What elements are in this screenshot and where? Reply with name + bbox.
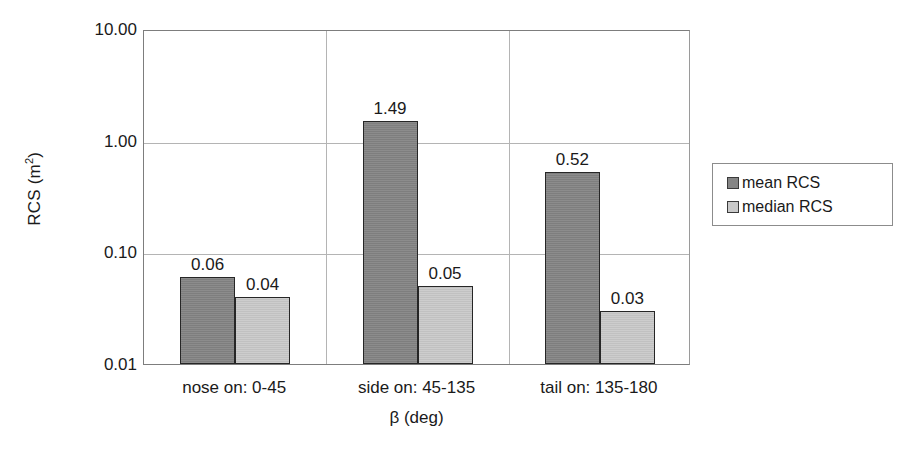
y-axis-tick-labels: 10.001.000.100.01 [13,30,137,365]
legend-item[interactable]: mean RCS [727,171,892,195]
x-axis-tick-label: tail on: 135-180 [540,378,657,398]
legend-swatch-icon [727,177,739,189]
x-axis-tick-label: side on: 45-135 [358,378,475,398]
legend-label: median RCS [742,198,833,216]
bar-value-label: 0.03 [611,289,644,309]
legend-label: mean RCS [742,174,820,192]
bar-value-label: 0.05 [428,264,461,284]
bar-median [418,286,473,364]
chart-legend: mean RCSmedian RCS [712,163,893,226]
bar-value-label: 0.52 [556,150,589,170]
y-axis-tick-label: 1.00 [17,132,137,152]
legend-swatch-icon [727,201,739,213]
bar-mean [363,121,418,364]
rcs-bar-chart: RCS (m2) 10.001.000.100.01 0.060.041.490… [0,0,907,451]
bar-mean [545,172,600,364]
bar-mean [180,277,235,364]
x-axis-title: β (deg) [143,408,690,428]
y-axis-tick-label: 0.01 [17,355,137,375]
bar-median [600,311,655,364]
gridline-category-separator [509,31,510,364]
legend-item[interactable]: median RCS [727,195,892,219]
y-axis-tick-label: 10.00 [17,20,137,40]
bar-value-label: 0.04 [246,275,279,295]
plot-area: 0.060.041.490.050.520.03 [143,30,690,365]
x-axis-tick-label: nose on: 0-45 [182,378,286,398]
gridline-category-separator [326,31,327,364]
bar-median [235,297,290,364]
bar-value-label: 0.06 [191,255,224,275]
y-axis-tick-label: 0.10 [17,243,137,263]
bar-value-label: 1.49 [373,99,406,119]
